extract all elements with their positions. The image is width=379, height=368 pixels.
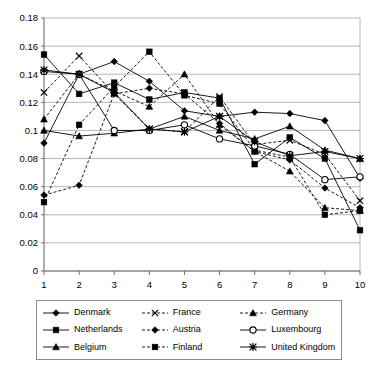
data-point-marker xyxy=(76,53,82,59)
legend-item-austria: Austria xyxy=(140,321,239,338)
gridlines xyxy=(44,18,360,271)
series-france xyxy=(41,53,363,204)
legend-label-denmark: Denmark xyxy=(74,308,111,317)
legend-item-finland: Finland xyxy=(140,339,239,356)
data-point-marker xyxy=(145,125,153,133)
data-point-marker xyxy=(286,168,293,174)
data-point-marker xyxy=(286,110,293,117)
data-point-marker xyxy=(322,185,329,192)
series-belgium xyxy=(41,113,364,161)
legend-swatch-belgium xyxy=(41,341,71,353)
data-point-marker xyxy=(286,152,294,160)
data-point-marker xyxy=(286,123,293,129)
data-point-marker xyxy=(53,309,60,316)
x-tick-label: 7 xyxy=(252,279,257,290)
data-point-marker xyxy=(181,122,187,128)
data-point-marker xyxy=(75,70,83,78)
data-point-marker xyxy=(111,127,117,133)
data-point-marker xyxy=(249,343,257,351)
data-point-marker xyxy=(357,227,363,233)
axes xyxy=(41,18,360,275)
x-tick-label: 4 xyxy=(147,279,152,290)
data-point-marker xyxy=(41,140,48,147)
legend-label-netherlands: Netherlands xyxy=(74,325,123,334)
data-point-marker xyxy=(147,97,153,103)
legend-item-germany: Germany xyxy=(238,304,337,321)
legend-item-france: France xyxy=(140,304,239,321)
legend-swatch-austria xyxy=(140,324,170,336)
y-tick-label: 0.04 xyxy=(20,209,39,220)
x-axis-tick-labels: 12345678910 xyxy=(41,279,365,290)
data-point-marker xyxy=(41,116,48,122)
data-point-marker xyxy=(251,109,258,116)
legend-label-austria: Austria xyxy=(173,325,201,334)
data-point-marker xyxy=(356,155,364,163)
data-point-marker xyxy=(40,66,48,74)
legend-item-belgium: Belgium xyxy=(41,339,140,356)
y-tick-label: 0.16 xyxy=(20,41,39,52)
data-point-marker xyxy=(182,93,188,99)
y-tick-label: 0.08 xyxy=(20,153,39,164)
data-point-marker xyxy=(111,58,118,65)
y-tick-label: 0.1 xyxy=(25,125,38,136)
data-series xyxy=(40,49,364,233)
data-point-marker xyxy=(322,212,328,218)
data-point-marker xyxy=(76,91,82,97)
legend-swatch-netherlands xyxy=(41,324,71,336)
legend-label-germany: Germany xyxy=(271,308,308,317)
data-point-marker xyxy=(41,52,47,58)
x-tick-label: 9 xyxy=(322,279,327,290)
legend-swatch-france xyxy=(140,307,170,319)
legend-label-luxembourg: Luxembourg xyxy=(271,325,321,334)
x-tick-label: 2 xyxy=(76,279,81,290)
legend-label-finland: Finland xyxy=(173,343,203,352)
data-point-marker xyxy=(217,101,223,107)
line-chart: 00.020.040.060.080.10.120.140.160.18 123… xyxy=(0,0,379,368)
data-point-marker xyxy=(181,128,189,136)
data-point-marker xyxy=(110,89,118,97)
legend-item-united-kingdom: United Kingdom xyxy=(238,339,337,356)
x-tick-label: 5 xyxy=(182,279,187,290)
data-point-marker xyxy=(251,138,259,146)
legend-swatch-denmark xyxy=(41,307,71,319)
y-axis-tick-labels: 00.020.040.060.080.10.120.140.160.18 xyxy=(20,12,39,276)
y-tick-label: 0.06 xyxy=(20,181,39,192)
data-point-marker xyxy=(41,199,47,205)
series-austria xyxy=(41,85,364,211)
chart-legend: Denmark France Germany Netherlands Austr… xyxy=(36,300,342,360)
data-point-marker xyxy=(152,345,158,351)
data-point-marker xyxy=(181,113,188,119)
y-tick-label: 0.14 xyxy=(20,69,39,80)
series-luxembourg xyxy=(41,68,363,182)
legend-swatch-germany xyxy=(238,307,268,319)
data-point-marker xyxy=(146,85,153,92)
legend-label-belgium: Belgium xyxy=(74,343,107,352)
series-denmark xyxy=(41,58,364,181)
y-tick-label: 0 xyxy=(33,265,38,276)
x-tick-label: 1 xyxy=(41,279,46,290)
data-point-marker xyxy=(151,327,158,334)
series-netherlands xyxy=(41,52,363,233)
y-tick-label: 0.18 xyxy=(20,12,39,23)
x-tick-label: 10 xyxy=(355,279,366,290)
x-tick-label: 3 xyxy=(112,279,117,290)
x-tick-label: 8 xyxy=(287,279,292,290)
data-point-marker xyxy=(216,136,222,142)
legend-swatch-united-kingdom xyxy=(238,341,268,353)
legend-label-france: France xyxy=(173,308,201,317)
legend-swatch-luxembourg xyxy=(238,324,268,336)
data-point-marker xyxy=(147,49,153,55)
data-point-marker xyxy=(252,161,258,167)
y-tick-label: 0.12 xyxy=(20,97,39,108)
y-tick-label: 0.02 xyxy=(20,237,39,248)
data-point-marker xyxy=(321,148,329,156)
legend-swatch-finland xyxy=(140,341,170,353)
data-point-marker xyxy=(322,177,328,183)
data-point-marker xyxy=(250,327,256,333)
series-germany xyxy=(41,71,364,214)
data-point-marker xyxy=(357,174,363,180)
legend-item-denmark: Denmark xyxy=(41,304,140,321)
legend-item-netherlands: Netherlands xyxy=(41,321,140,338)
x-tick-label: 6 xyxy=(217,279,222,290)
data-point-marker xyxy=(216,112,224,120)
